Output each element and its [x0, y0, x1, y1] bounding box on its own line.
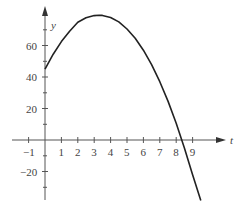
svg-text:3: 3: [91, 146, 97, 158]
svg-text:6: 6: [141, 146, 147, 158]
svg-text:−1: −1: [23, 146, 35, 158]
svg-text:40: 40: [26, 71, 38, 83]
svg-text:4: 4: [108, 146, 114, 158]
svg-text:9: 9: [190, 146, 196, 158]
y-axis-arrow-icon: [42, 6, 48, 16]
svg-text:60: 60: [26, 40, 38, 52]
x-tick-labels: −1 1 2 3 4 5 6 7 8 9: [23, 146, 196, 158]
svg-text:8: 8: [173, 146, 179, 158]
svg-text:−20: −20: [20, 166, 38, 178]
x-axis-label: t: [230, 134, 234, 146]
svg-text:2: 2: [75, 146, 81, 158]
x-axis-arrow-icon: [216, 137, 226, 143]
svg-text:7: 7: [157, 146, 163, 158]
chart: t y −1 1 2 3 4 5 6 7 8 9: [0, 0, 244, 216]
data-curve: [45, 15, 201, 200]
svg-text:1: 1: [59, 146, 65, 158]
y-axis-label: y: [50, 19, 56, 31]
y-axis: y: [42, 6, 56, 200]
svg-text:20: 20: [26, 103, 38, 115]
svg-text:5: 5: [124, 146, 130, 158]
